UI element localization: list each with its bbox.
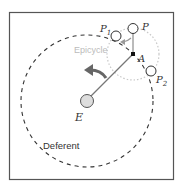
earth-circle — [81, 95, 94, 108]
epicycle-center-point — [131, 52, 135, 56]
epicycle-diagram: E A P P1 P2 Epicycle Deferent — [0, 0, 183, 190]
planet-p1 — [111, 31, 121, 41]
epicycle-center-label: A — [137, 53, 145, 64]
epicycle-label: Epicycle — [74, 45, 108, 55]
planet-p2 — [146, 66, 156, 76]
planet-p — [128, 24, 138, 34]
deferent-label: Deferent — [43, 140, 80, 151]
planet-label: P — [141, 21, 149, 32]
earth-label: E — [74, 111, 83, 124]
